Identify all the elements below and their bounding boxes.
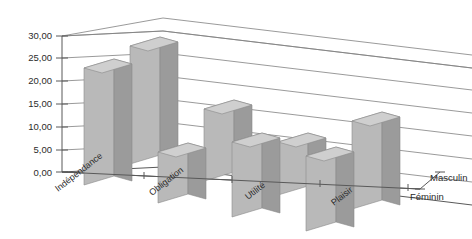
y-tick-label-5: 5,00 [34, 144, 53, 155]
series-label-feminin: Féminin [410, 191, 444, 202]
bar-side-face [114, 59, 132, 181]
series-label-masculin: Masculin [430, 172, 468, 183]
chart-canvas: 30,00 25,00 20,00 15,00 10,00 5,00 0,00 [0, 0, 472, 239]
y-tick-label-25: 25,00 [28, 52, 52, 63]
y-tick-label-20: 20,00 [28, 75, 52, 86]
bar-independance-masculin[interactable] [130, 37, 178, 164]
bar-utilite-feminin[interactable] [232, 133, 280, 217]
bar-side-face [262, 133, 280, 213]
y-tick-label-15: 15,00 [28, 98, 52, 109]
bar-side-face [160, 37, 178, 160]
bar-front-face [130, 37, 160, 164]
y-axis: 30,00 25,00 20,00 15,00 10,00 5,00 0,00 [28, 30, 68, 178]
bar-front-face [352, 112, 382, 209]
bar-side-face [382, 112, 400, 205]
y-tick-label-0: 0,00 [34, 167, 53, 178]
ceiling-edge [62, 18, 472, 55]
y-tick-label-30: 30,00 [28, 30, 52, 41]
z-axis-legend: Masculin Féminin [410, 172, 468, 202]
chart-3d-bar: 30,00 25,00 20,00 15,00 10,00 5,00 0,00 [0, 0, 472, 239]
y-tick-label-10: 10,00 [28, 121, 52, 132]
bar-plaisir-masculin[interactable] [352, 112, 400, 209]
